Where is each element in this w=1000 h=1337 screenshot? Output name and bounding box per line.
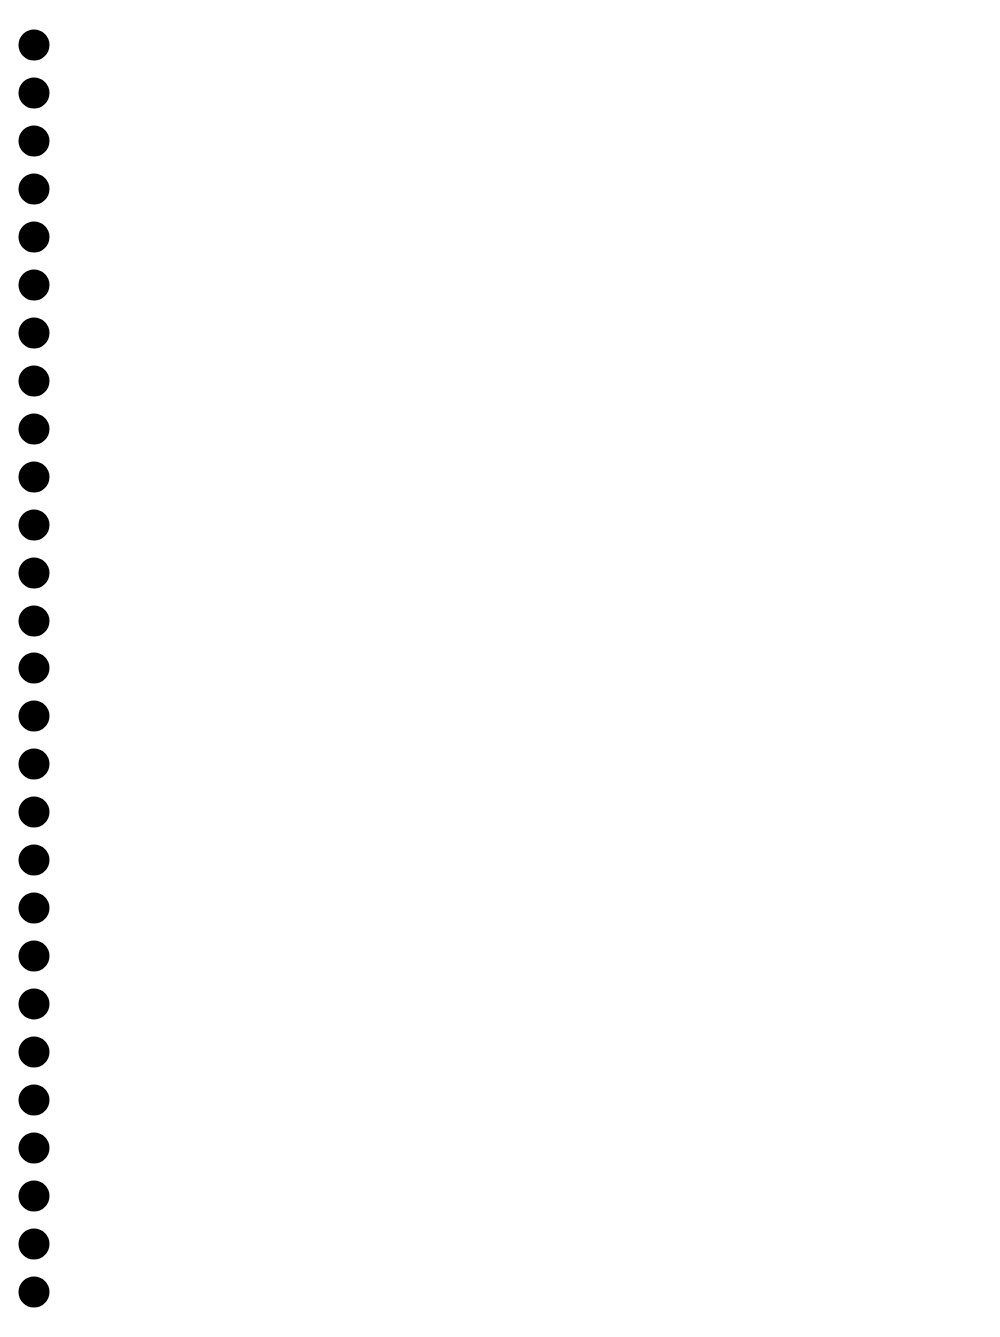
punch-hole-icon [19,318,50,349]
punch-hole-icon [19,1277,50,1308]
punch-hole-icon [19,174,50,205]
punch-hole-icon [19,30,50,61]
punch-hole-icon [19,989,50,1020]
punch-hole-icon [19,78,50,109]
punch-hole-icon [19,653,50,684]
punch-hole-icon [19,222,50,253]
punch-hole-icon [19,797,50,828]
punch-hole-icon [19,270,50,301]
punch-hole-icon [19,558,50,589]
punch-hole-icon [19,1133,50,1164]
punch-hole-strip [0,0,80,1337]
punch-hole-icon [19,1181,50,1212]
punch-hole-icon [19,462,50,493]
punch-hole-icon [19,749,50,780]
punch-hole-icon [19,1229,50,1260]
punch-hole-icon [19,1037,50,1068]
punch-hole-icon [19,701,50,732]
punch-hole-icon [19,126,50,157]
punch-hole-icon [19,414,50,445]
punch-hole-icon [19,941,50,972]
punch-hole-icon [19,606,50,637]
punch-hole-icon [19,366,50,397]
punch-hole-icon [19,893,50,924]
punch-hole-icon [19,1085,50,1116]
blank-page [0,0,1000,1337]
punch-hole-icon [19,510,50,541]
punch-hole-icon [19,845,50,876]
